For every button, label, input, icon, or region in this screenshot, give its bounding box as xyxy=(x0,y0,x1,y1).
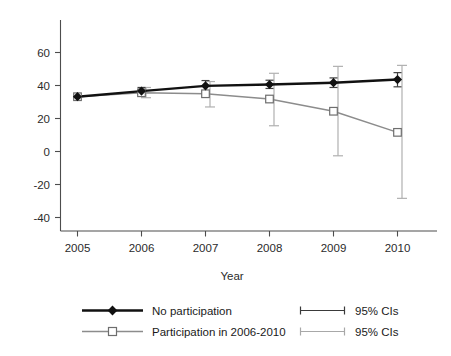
x-tick-label: 2010 xyxy=(385,242,411,254)
y-tick-label: 0 xyxy=(44,146,50,158)
open-square-icon xyxy=(109,328,117,336)
x-tick-label: 2005 xyxy=(65,242,91,254)
x-tick-label: 2006 xyxy=(129,242,155,254)
x-tick-label: 2007 xyxy=(193,242,219,254)
open-square-marker xyxy=(202,90,210,98)
y-tick-label: 40 xyxy=(37,80,50,92)
chart-background xyxy=(0,0,451,356)
open-square-marker xyxy=(266,95,274,103)
legend-label-ci-gray: 95% CIs xyxy=(355,326,399,338)
y-tick-label: 60 xyxy=(37,47,50,59)
y-tick-label: -40 xyxy=(33,212,50,224)
x-axis-title: Year xyxy=(220,270,243,282)
legend-item-participation[interactable]: Participation in 2006-2010 xyxy=(82,326,286,338)
x-tick-label: 2008 xyxy=(257,242,283,254)
legend-label-ci-dark: 95% CIs xyxy=(355,305,399,317)
y-tick-label: -20 xyxy=(33,179,50,191)
legend-label-participation: Participation in 2006-2010 xyxy=(152,326,286,338)
open-square-marker xyxy=(394,129,402,137)
y-tick-label: 20 xyxy=(37,113,50,125)
line-chart-figure: 60 40 20 0 -20 -40 2005 2006 2007 2008 2… xyxy=(0,0,451,356)
legend-label-no-participation: No participation xyxy=(152,305,232,317)
open-square-marker xyxy=(330,107,338,115)
x-tick-label: 2009 xyxy=(321,242,347,254)
